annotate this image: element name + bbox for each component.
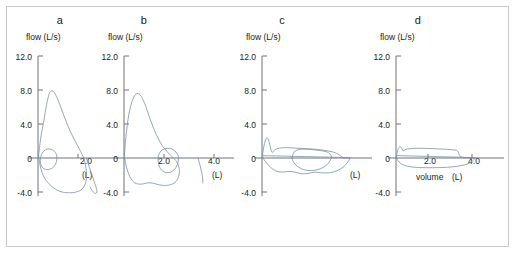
figure-container: a flow (L/s) 12.0 8.0 4.0 0 -4.0 2.0 (L) [0, 0, 515, 253]
panel-b-plot [104, 6, 244, 247]
panel-c: c flow (L/s) 12.0 8.0 4.0 0 -4.0 (L) [240, 6, 380, 247]
panel-d: d flow (L/s) 12.0 8.0 4.0 0 -4.0 2.0 4.0… [370, 6, 510, 247]
panel-d-plot [370, 6, 510, 247]
panel-b: b flow (L/s) 12.0 8.0 4.0 0 -4.0 2.0 4.0… [104, 6, 244, 247]
panel-c-plot [240, 6, 380, 247]
